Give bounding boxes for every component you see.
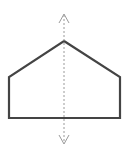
symmetry-diagram [0,0,130,150]
